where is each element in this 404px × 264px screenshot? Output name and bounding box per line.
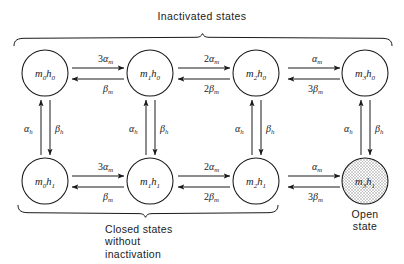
rate-label-bottom-1-backward: 2βm xyxy=(204,191,219,203)
transition-m0h0-m1h0 xyxy=(72,68,124,79)
brace-closed-states xyxy=(18,205,278,217)
rate-label-vert-3-up: αh xyxy=(344,123,353,135)
rate-label-vert-3-down: βh xyxy=(374,123,384,135)
channel-state-diagram: Inactivated states xyxy=(0,0,404,264)
rate-label-bottom-0-backward: βm xyxy=(102,191,113,203)
open-state-caption-line-1: Open xyxy=(352,208,379,220)
rate-label-top-2-forward: αm xyxy=(312,53,322,65)
transition-m1h1-m2h1 xyxy=(178,176,230,187)
vertical-transition-col-3 xyxy=(361,100,370,155)
transition-m0h1-m1h1 xyxy=(72,176,124,187)
rate-label-bottom-2-backward: 3βm xyxy=(308,191,323,203)
rate-label-vert-0-down: βh xyxy=(54,123,64,135)
open-state-caption: Open state xyxy=(352,208,379,233)
rate-label-bottom-2-forward: αm xyxy=(312,161,322,173)
vertical-transition-col-0 xyxy=(41,100,50,155)
closed-states-caption-line-3: inactivation xyxy=(105,248,173,260)
brace-inactivated-states xyxy=(14,34,392,46)
rate-label-bottom-1-forward: 2αm xyxy=(204,161,219,173)
vertical-transition-col-1 xyxy=(146,100,155,155)
closed-states-caption: Closed states without inactivation xyxy=(105,223,173,260)
closed-states-caption-line-1: Closed states xyxy=(105,223,173,235)
rate-label-top-2-backward: 3βm xyxy=(308,83,323,95)
rate-label-vert-2-up: αh xyxy=(235,123,244,135)
rate-label-vert-1-down: βh xyxy=(159,123,169,135)
rate-label-vert-1-up: αh xyxy=(129,123,138,135)
rate-label-bottom-0-forward: 3αm xyxy=(98,161,113,173)
rate-label-top-0-backward: βm xyxy=(102,83,113,95)
open-state-caption-line-2: state xyxy=(352,220,379,232)
transition-m2h1-m3h1 xyxy=(288,176,340,187)
vertical-transition-col-2 xyxy=(252,100,261,155)
transition-m2h0-m3h0 xyxy=(288,68,340,79)
closed-states-caption-line-2: without xyxy=(105,235,173,247)
rate-label-vert-0-up: αh xyxy=(24,123,33,135)
transition-m1h0-m2h0 xyxy=(178,68,230,79)
brace-top-label: Inactivated states xyxy=(158,10,247,22)
rate-label-top-1-forward: 2αm xyxy=(204,53,219,65)
rate-label-top-1-backward: 2βm xyxy=(204,83,219,95)
rate-label-top-0-forward: 3αm xyxy=(98,53,113,65)
rate-label-vert-2-down: βh xyxy=(265,123,275,135)
